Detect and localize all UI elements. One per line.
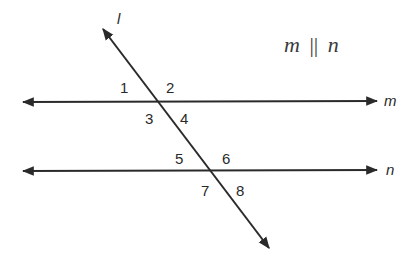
angle-label-3: 3 (145, 110, 153, 127)
angle-label-4: 4 (180, 110, 188, 127)
angle-label-6: 6 (222, 150, 230, 167)
parallel-line-n (23, 170, 377, 171)
angle-label-1: 1 (120, 79, 128, 96)
angle-label-5: 5 (175, 150, 183, 167)
angle-label-7: 7 (201, 182, 209, 199)
parallel-symbol: || (309, 32, 318, 57)
transversal-line-l (103, 29, 269, 248)
line-label-m: m (384, 92, 397, 109)
angle-label-2: 2 (166, 79, 174, 96)
angle-label-8: 8 (236, 182, 244, 199)
line-label-n: n (386, 161, 394, 178)
title-right: n (328, 32, 339, 57)
parallel-lines-transversal-diagram: l m n m || n 1 2 3 4 5 6 7 8 (0, 0, 416, 265)
title-left: m (284, 32, 300, 57)
parallel-line-m (23, 101, 377, 102)
diagram-svg: l m n m || n 1 2 3 4 5 6 7 8 (0, 0, 416, 265)
parallel-statement: m || n (284, 32, 339, 57)
line-label-l: l (117, 10, 121, 27)
